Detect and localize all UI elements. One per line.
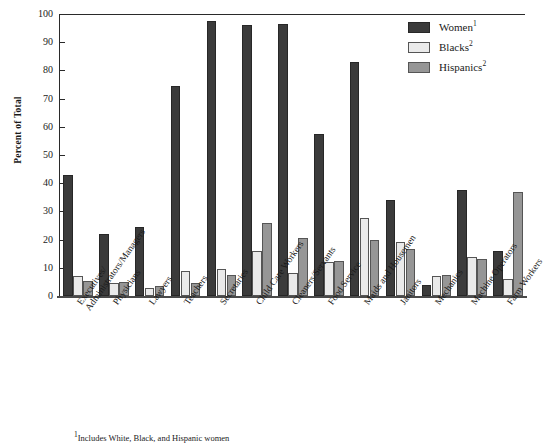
legend-item: Women1: [408, 20, 533, 36]
x-axis-label: Secretaries: [218, 267, 251, 307]
x-axis-label: Food Service: [326, 260, 364, 307]
chart-footnote: 1Includes White, Black, and Hispanic wom…: [74, 433, 229, 443]
legend-label: Blacks2: [439, 40, 473, 54]
x-axis-label: Janitors: [398, 277, 424, 307]
legend-swatch: [408, 62, 430, 73]
legend-swatch: [408, 22, 430, 33]
x-axis-label: Mechanics: [433, 267, 465, 307]
x-axis-label-line: Teachers: [182, 273, 210, 307]
x-axis-label-line: Janitors: [398, 277, 424, 307]
legend-item: Blacks2: [408, 40, 533, 56]
chart-legend: Women1Blacks2Hispanics2: [408, 20, 533, 80]
legend-footnote-marker: 2: [469, 39, 473, 48]
x-axis-label-line: Secretaries: [218, 267, 251, 307]
x-axis-label-line: Mechanics: [433, 267, 465, 307]
legend-label: Hispanics2: [439, 60, 486, 74]
x-axis-label: Farm Workers: [505, 257, 545, 307]
x-axis-label-line: Executives/: [75, 221, 139, 306]
legend-footnote-marker: 2: [482, 59, 486, 68]
x-axis-label-line: Farm Workers: [505, 257, 545, 307]
x-axis-label-line: Food Service: [326, 260, 364, 307]
footnote-marker: 1: [74, 430, 78, 439]
x-axis-label: Lawyers: [147, 274, 174, 307]
legend-footnote-marker: 1: [473, 19, 477, 28]
legend-item: Hispanics2: [408, 60, 533, 76]
x-axis-label: Teachers: [182, 273, 210, 307]
legend-swatch: [408, 42, 430, 53]
x-axis-label-line: Lawyers: [147, 274, 174, 307]
legend-label: Women1: [439, 20, 477, 34]
